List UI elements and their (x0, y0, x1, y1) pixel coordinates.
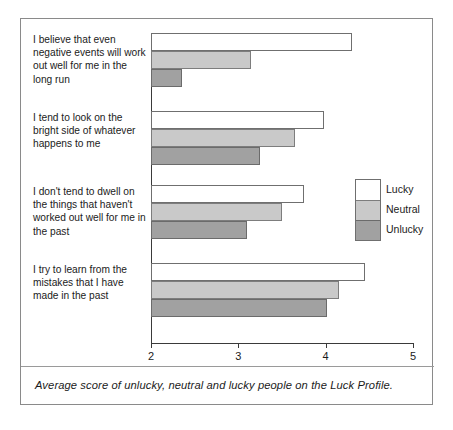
bar-unlucky (151, 69, 182, 87)
category-label: I try to learn from the mistakes that I … (33, 263, 147, 303)
bar-unlucky (151, 299, 327, 317)
x-axis-tick (413, 343, 414, 348)
bar-lucky (151, 33, 352, 51)
value-axis-line (151, 343, 413, 344)
x-axis-tick-label: 5 (398, 350, 428, 362)
bar-unlucky (151, 221, 247, 239)
x-axis-tick (326, 343, 327, 348)
x-axis-tick (151, 343, 152, 348)
chart-legend: LuckyNeutralUnlucky (355, 179, 381, 241)
x-axis-tick-label: 2 (136, 350, 166, 362)
x-axis-tick (238, 343, 239, 348)
bar-neutral (151, 281, 339, 299)
figure-frame: 2345 I believe that even negative events… (20, 18, 433, 405)
legend-item-unlucky: Unlucky (356, 220, 380, 240)
category-label: I don't tend to dwell on the things that… (33, 185, 147, 238)
bar-lucky (151, 185, 304, 203)
legend-item-neutral: Neutral (356, 200, 380, 220)
x-axis-tick-label: 4 (311, 350, 341, 362)
x-axis-tick-label: 3 (223, 350, 253, 362)
bar-group: I tend to look on the bright side of wha… (21, 111, 434, 165)
legend-swatch-unlucky (356, 220, 380, 240)
legend-item-lucky: Lucky (356, 180, 380, 200)
legend-label-lucky: Lucky (386, 183, 413, 195)
bar-lucky (151, 263, 365, 281)
bar-group: I try to learn from the mistakes that I … (21, 263, 434, 317)
legend-swatch-neutral (356, 200, 380, 220)
legend-swatch-lucky (356, 180, 380, 200)
bar-lucky (151, 111, 324, 129)
bar-neutral (151, 203, 282, 221)
figure-caption: Average score of unlucky, neutral and lu… (35, 379, 425, 391)
bar-neutral (151, 51, 251, 69)
category-label: I tend to look on the bright side of wha… (33, 111, 147, 151)
bar-neutral (151, 129, 295, 147)
caption-divider (21, 366, 434, 367)
legend-label-neutral: Neutral (386, 203, 420, 215)
legend-label-unlucky: Unlucky (386, 223, 423, 235)
bar-group: I believe that even negative events will… (21, 33, 434, 87)
plot-area: 2345 I believe that even negative events… (21, 19, 434, 349)
category-label: I believe that even negative events will… (33, 33, 147, 86)
bar-unlucky (151, 147, 260, 165)
